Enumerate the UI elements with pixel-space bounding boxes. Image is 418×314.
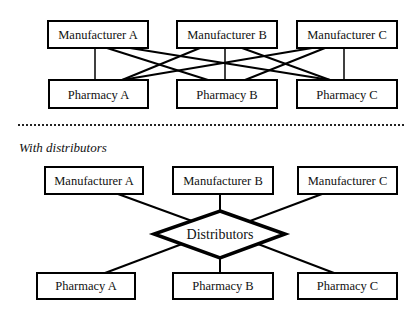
edge-mfr-c-hub — [250, 194, 322, 221]
direct-edges — [95, 48, 344, 80]
pharmacy-node: Pharmacy C — [297, 80, 397, 108]
node-label: Manufacturer A — [58, 28, 137, 42]
edge-mfr-a-hub — [118, 194, 192, 221]
pharmacy-node: Pharmacy B — [177, 80, 277, 108]
node-label: Pharmacy C — [316, 88, 377, 102]
node-label: Manufacturer A — [54, 174, 133, 188]
manufacturer-node: Manufacturer A — [48, 21, 148, 48]
node-label: Pharmacy B — [192, 279, 253, 293]
manufacturer-node: Manufacturer C — [297, 21, 397, 48]
node-label: Pharmacy A — [68, 88, 129, 102]
supply-chain-diagram: Manufacturer A Manufacturer B Manufactur… — [0, 0, 418, 314]
node-label: Manufacturer B — [183, 174, 262, 188]
pharmacy-node: Pharmacy A — [49, 80, 148, 108]
edge-hub-pharm-a — [105, 244, 182, 273]
direct-network: Manufacturer A Manufacturer B Manufactur… — [48, 21, 397, 108]
node-label: Manufacturer B — [187, 28, 266, 42]
node-label: Pharmacy A — [55, 279, 116, 293]
node-label: Manufacturer C — [307, 28, 386, 42]
distributors-hub: Distributors — [154, 211, 285, 258]
node-label: Manufacturer C — [308, 174, 387, 188]
pharmacy-node: Pharmacy A — [37, 273, 135, 299]
manufacturer-node: Manufacturer A — [45, 167, 143, 194]
section-label: With distributors — [19, 140, 107, 155]
manufacturer-node: Manufacturer C — [298, 167, 397, 194]
edge-hub-pharm-c — [258, 244, 334, 273]
pharmacy-node: Pharmacy B — [173, 273, 273, 299]
distributor-network: Manufacturer A Manufacturer B Manufactur… — [37, 167, 397, 299]
node-label: Pharmacy B — [196, 88, 257, 102]
hub-label: Distributors — [187, 227, 254, 242]
pharmacy-node: Pharmacy C — [298, 273, 397, 299]
node-label: Pharmacy C — [317, 279, 378, 293]
manufacturer-node: Manufacturer B — [173, 167, 273, 194]
manufacturer-node: Manufacturer B — [177, 21, 277, 48]
